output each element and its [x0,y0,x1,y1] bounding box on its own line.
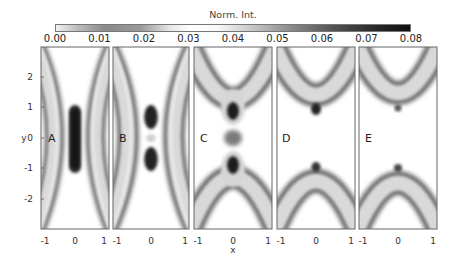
svg-text:-1: -1 [41,236,50,246]
x-axis-label: x [230,245,236,255]
svg-text:-1: -1 [359,236,368,246]
svg-text:0: 0 [148,236,154,246]
svg-text:1: 1 [348,236,354,246]
panel-a [34,43,116,233]
svg-text:1: 1 [265,236,271,246]
x-tick-labels: -1 0 1 -1 0 1 -1 0 1 -1 0 1 -1 0 1 [41,236,436,246]
y-tick-label: 0 [27,133,33,143]
panel-label-c: C [200,132,208,145]
svg-text:0: 0 [313,236,319,246]
panel-label-b: B [119,132,127,145]
svg-text:0: 0 [72,236,78,246]
y-tick-label: -1 [24,163,33,173]
svg-text:-1: -1 [277,236,286,246]
svg-text:-1: -1 [113,236,122,246]
panel-label-d: D [282,132,290,145]
y-tick-label: 2 [27,72,33,82]
svg-text:1: 1 [182,236,188,246]
svg-text:1: 1 [101,236,107,246]
panel-label-e: E [365,132,372,145]
heatmap-panels: 2 1 0 -1 -2 y -1 0 1 -1 0 1 -1 0 1 -1 0 … [0,0,455,260]
panel-label-a: A [48,132,56,145]
svg-text:-1: -1 [194,236,203,246]
y-tick-label: -2 [24,194,33,204]
svg-text:0: 0 [395,236,401,246]
y-axis-label: y [21,133,27,143]
svg-text:1: 1 [430,236,436,246]
y-tick-label: 1 [27,102,33,112]
